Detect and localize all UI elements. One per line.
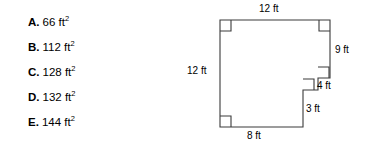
answer-choice-e-value: 144 ft [42,116,71,128]
answer-choice-a-value: 66 ft [43,16,65,28]
answer-choice-c-letter: C. [28,66,40,78]
worksheet-page: A.66 ft2 B.112 ft2 C.128 ft2 D.132 ft2 E… [0,0,365,148]
dimension-label-top: 12 ft [259,3,278,14]
answer-choice-e-letter: E. [28,116,39,128]
answer-choice-b-letter: B. [28,41,40,53]
answer-choice-e[interactable]: E.144 ft2 [28,110,158,135]
dimension-label-notch-horizontal: 4 ft [317,80,331,91]
geometry-figure: 12 ft 9 ft 12 ft 8 ft 4 ft 3 ft [175,0,365,148]
answer-choice-c[interactable]: C.128 ft2 [28,60,158,85]
answer-choice-c-exponent: 2 [71,64,75,73]
dimension-label-left: 12 ft [187,65,206,76]
answer-choice-b[interactable]: B.112 ft2 [28,35,158,60]
answer-choice-d-value: 132 ft [43,91,72,103]
answer-choice-list: A.66 ft2 B.112 ft2 C.128 ft2 D.132 ft2 E… [28,10,158,135]
answer-choice-d[interactable]: D.132 ft2 [28,85,158,110]
answer-choice-d-letter: D. [28,91,40,103]
answer-choice-a[interactable]: A.66 ft2 [28,10,158,35]
answer-choice-c-value: 128 ft [43,66,72,78]
answer-choice-b-exponent: 2 [70,39,74,48]
dimension-label-notch-vertical: 3 ft [306,103,320,114]
answer-choice-b-value: 112 ft [43,41,71,53]
dimension-label-right: 9 ft [335,44,349,55]
answer-choice-a-exponent: 2 [65,14,69,23]
answer-choice-e-exponent: 2 [71,114,75,123]
answer-choice-d-exponent: 2 [71,89,75,98]
dimension-label-bottom: 8 ft [247,130,261,141]
answer-choice-a-letter: A. [28,16,40,28]
